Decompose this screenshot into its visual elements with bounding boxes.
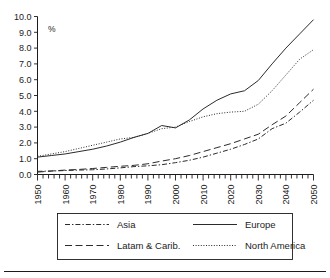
legend: AsiaEuropeLatam & Carib.North America bbox=[58, 214, 306, 260]
axes bbox=[38, 17, 314, 175]
x-tick-label: 2000 bbox=[171, 185, 181, 205]
series-line-asia bbox=[38, 100, 314, 171]
series-group bbox=[38, 20, 314, 172]
y-axis-ticks: 0.01.02.03.04.05.06.07.08.09.010.0 bbox=[14, 12, 38, 180]
y-tick-label: 10.0 bbox=[14, 12, 32, 22]
x-tick-label: 1980 bbox=[116, 185, 126, 205]
legend-label-latam-carib: Latam & Carib. bbox=[117, 240, 180, 251]
x-tick-label: 2030 bbox=[254, 185, 264, 205]
y-tick-label: 6.0 bbox=[19, 75, 32, 85]
y-axis-unit-label: % bbox=[48, 24, 56, 34]
y-tick-label: 1.0 bbox=[19, 154, 32, 164]
legend-label-north-america: North America bbox=[245, 240, 306, 251]
x-tick-label: 2010 bbox=[199, 185, 209, 205]
y-tick-label: 2.0 bbox=[19, 138, 32, 148]
y-tick-label: 0.0 bbox=[19, 170, 32, 180]
chart-figure: 0.01.02.03.04.05.06.07.08.09.010.0 19501… bbox=[0, 0, 330, 278]
x-tick-label: 1990 bbox=[143, 185, 153, 205]
y-tick-label: 3.0 bbox=[19, 122, 32, 132]
x-tick-label: 1960 bbox=[61, 185, 71, 205]
x-tick-label: 2050 bbox=[309, 185, 319, 205]
series-line-north-america bbox=[38, 50, 314, 157]
x-tick-label: 1970 bbox=[88, 185, 98, 205]
x-axis-ticks: 1950196019701980199020002010202020302040… bbox=[33, 175, 319, 205]
y-tick-label: 9.0 bbox=[19, 28, 32, 38]
y-tick-label: 7.0 bbox=[19, 59, 32, 69]
legend-label-asia: Asia bbox=[117, 219, 136, 230]
line-chart: 0.01.02.03.04.05.06.07.08.09.010.0 19501… bbox=[0, 0, 330, 278]
x-tick-label: 1950 bbox=[33, 185, 43, 205]
y-tick-label: 5.0 bbox=[19, 91, 32, 101]
x-tick-label: 2040 bbox=[281, 185, 291, 205]
y-tick-label: 8.0 bbox=[19, 43, 32, 53]
x-tick-label: 2020 bbox=[226, 185, 236, 205]
y-tick-label: 4.0 bbox=[19, 107, 32, 117]
legend-label-europe: Europe bbox=[245, 219, 276, 230]
series-line-latam-carib bbox=[38, 89, 314, 172]
series-line-europe bbox=[38, 20, 314, 157]
